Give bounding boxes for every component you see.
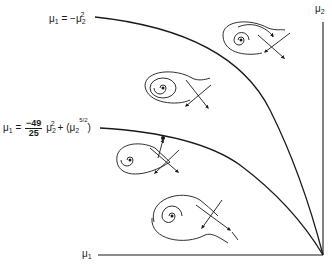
rhs-base: −μ	[70, 13, 82, 24]
phase-portrait-1	[223, 22, 290, 58]
fraction-denominator: 25	[25, 129, 42, 138]
lhs-sub: 1	[9, 127, 13, 134]
term2-sub: 2	[75, 127, 79, 134]
rhs-sup: 2	[81, 11, 85, 18]
mu2-axis-label: μ2	[315, 4, 325, 15]
plus-sign: +	[58, 122, 64, 133]
equals-sign: =	[15, 122, 21, 133]
mu1-sub: 1	[88, 253, 92, 260]
lower-curve-label: μ1 = −49 25 μ22 + (μ25/2)	[3, 117, 91, 138]
term1-sup: 2	[51, 120, 55, 127]
bifurcation-diagram: μ2 μ1 μ1 = −μ22 μ1 = −49 25 μ22 + (μ25/2…	[0, 0, 332, 270]
fraction: −49 25	[25, 119, 42, 138]
term1-sub: 2	[52, 127, 56, 134]
equals-sign: =	[61, 13, 67, 24]
marked-point	[161, 136, 165, 140]
rhs-sub: 2	[82, 18, 86, 25]
phase-portrait-2	[145, 72, 211, 108]
lower-curve	[100, 128, 323, 255]
phase-portrait-3	[117, 140, 179, 174]
phase-portrait-4	[152, 195, 238, 243]
exp-num: 5	[79, 117, 82, 123]
upper-curve	[95, 17, 323, 255]
lhs-sub: 1	[55, 18, 59, 25]
mu1-axis-label: μ1	[82, 249, 92, 260]
upper-curve-label: μ1 = −μ22	[49, 11, 85, 25]
term2-exponent: 5/2	[79, 117, 87, 123]
mu2-sub: 2	[321, 8, 325, 15]
paren-close: )	[88, 122, 91, 133]
